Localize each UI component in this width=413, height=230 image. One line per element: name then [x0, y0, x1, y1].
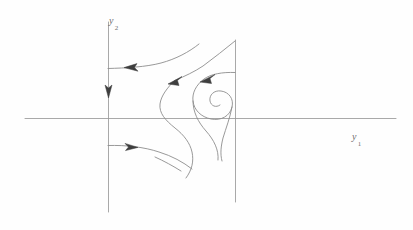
traj-spiral [193, 72, 235, 119]
axis-label-y1-var: y [352, 131, 357, 142]
arrow-spiral-entry-icon [200, 75, 215, 84]
axis-label-y2-var: y [109, 15, 114, 26]
axis-label-y1: y1 [352, 126, 360, 146]
arrow-mid-left-icon [168, 77, 182, 86]
axis-label-y1-subscript: 1 [358, 140, 362, 148]
traj-upper-descending [176, 41, 235, 80]
phase-portrait-canvas: .ink { fill: none; stroke: #8d8d8d; stro… [0, 0, 413, 230]
arrow-lower-right-icon [125, 143, 138, 150]
traj-lower-horizontal [108, 145, 192, 169]
traj-upper-horizontal [108, 44, 199, 69]
axis-label-y2: y2 [109, 10, 117, 30]
axis-group [25, 22, 396, 212]
phase-portrait-figure: .ink { fill: none; stroke: #8d8d8d; stro… [0, 0, 413, 230]
trajectory-group [108, 41, 235, 178]
traj-s-curve [160, 80, 193, 178]
axis-label-y2-subscript: 2 [115, 24, 119, 32]
traj-right-inner-tail [221, 107, 232, 161]
